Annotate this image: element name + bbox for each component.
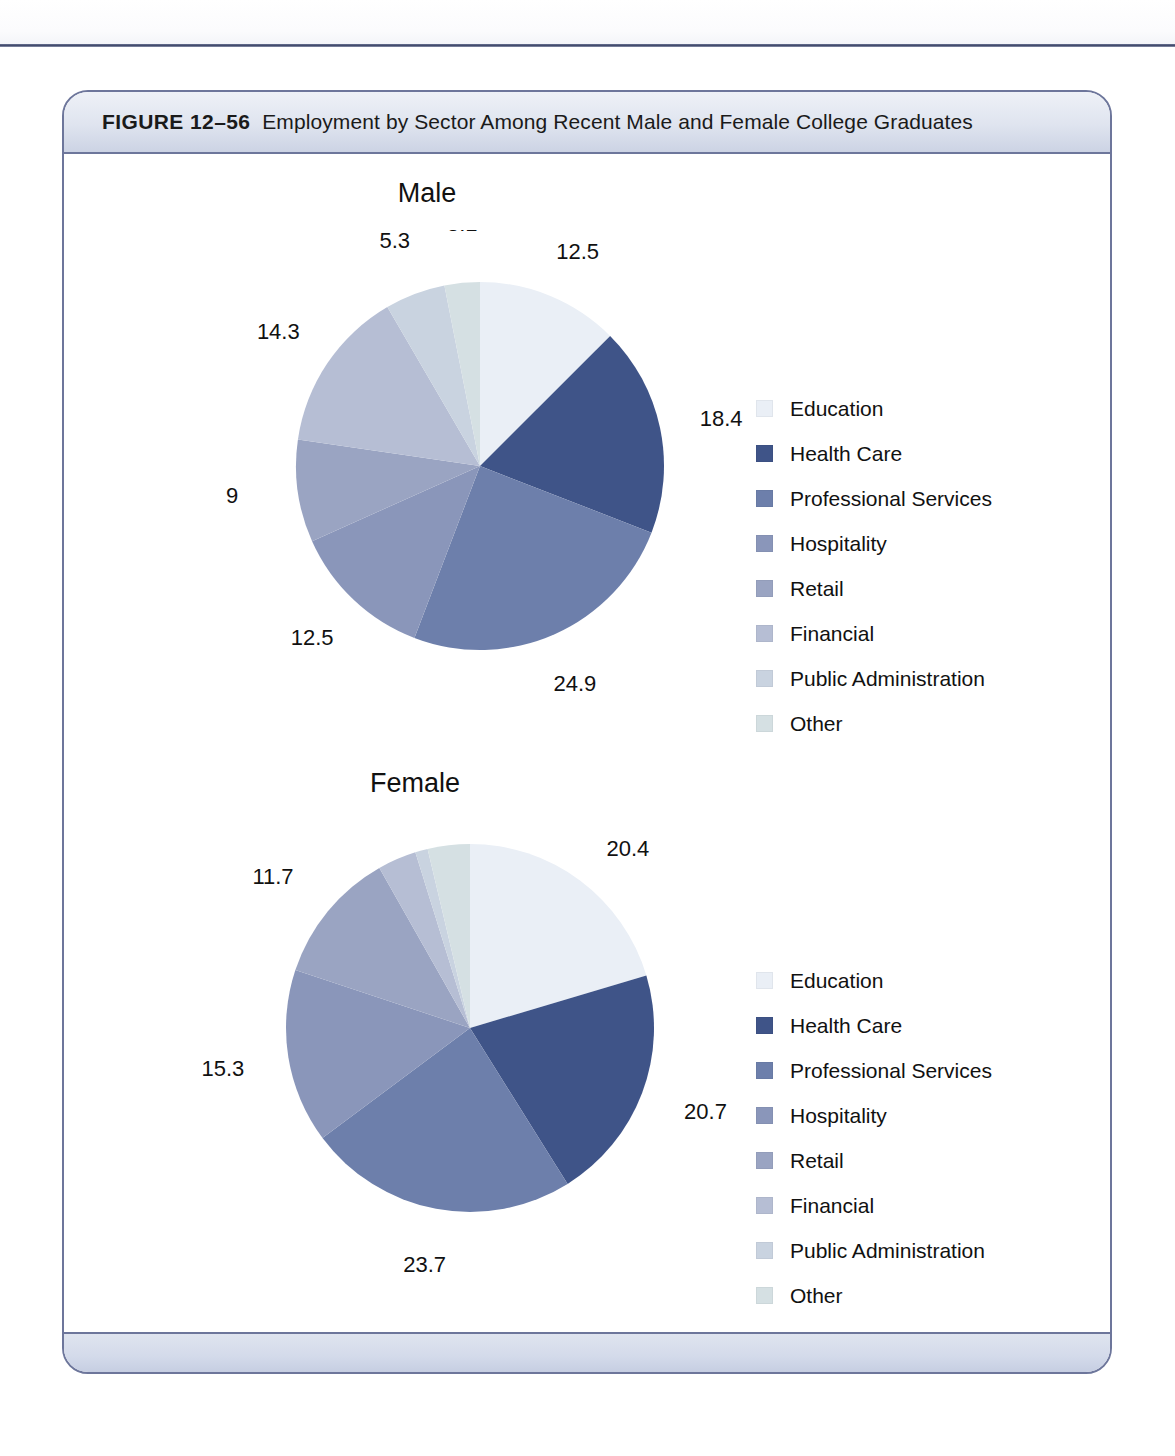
pie-chart-male: 12.518.424.912.5914.35.33.1 [170,230,790,700]
legend-swatch-health-care-icon [756,445,773,462]
legend-swatch-public-administration-icon [756,670,773,687]
legend-swatch-retail-icon [756,580,773,597]
chart-block-male: Male 12.518.424.912.5914.35.33.1 Educati… [64,154,1110,754]
legend-swatch-other-icon [756,1287,773,1304]
pie-value-label: 5.3 [380,230,411,253]
legend-item-other[interactable]: Other [756,1273,992,1318]
legend-item-public-administration[interactable]: Public Administration [756,656,992,701]
figure-title: Employment by Sector Among Recent Male a… [262,110,973,133]
pie-value-label: 11.7 [252,864,293,889]
legend-item-education[interactable]: Education [756,958,992,1003]
page-header-rule [0,44,1175,47]
legend-label-retail: Retail [790,1149,844,1173]
legend-label-professional-services: Professional Services [790,487,992,511]
legend-swatch-professional-services-icon [756,1062,773,1079]
legend-label-public-administration: Public Administration [790,1239,985,1263]
pie-value-label: 18.4 [700,406,743,431]
legend-swatch-professional-services-icon [756,490,773,507]
figure-body: Male 12.518.424.912.5914.35.33.1 Educati… [64,154,1110,1332]
legend-swatch-health-care-icon [756,1017,773,1034]
pie-value-label: 9 [226,483,238,508]
pie-value-label: 20.4 [606,836,649,861]
legend-label-other: Other [790,1284,843,1308]
chart-block-female: Female 20.420.723.715.311.73.41.13.7 Edu… [64,754,1110,1336]
legend-label-retail: Retail [790,577,844,601]
legend-label-education: Education [790,969,883,993]
legend-item-hospitality[interactable]: Hospitality [756,521,992,566]
legend-label-financial: Financial [790,622,874,646]
legend-item-financial[interactable]: Financial [756,1183,992,1228]
pie-wrap-female: 20.420.723.715.311.73.41.13.7 [160,834,780,1304]
legend-male: Education Health Care Professional Servi… [756,386,992,746]
legend-label-health-care: Health Care [790,1014,902,1038]
legend-label-health-care: Health Care [790,442,902,466]
legend-item-public-administration[interactable]: Public Administration [756,1228,992,1273]
pie-wrap-male: 12.518.424.912.5914.35.33.1 [170,230,790,700]
legend-label-other: Other [790,712,843,736]
legend-female: Education Health Care Professional Servi… [756,958,992,1318]
pie-value-label: 3.1 [447,230,478,236]
chart-title-male: Male [62,178,950,209]
pie-value-label: 14.3 [257,319,300,344]
legend-item-retail[interactable]: Retail [756,566,992,611]
legend-item-professional-services[interactable]: Professional Services [756,476,992,521]
legend-item-hospitality[interactable]: Hospitality [756,1093,992,1138]
figure-number: FIGURE 12–56 [102,110,250,133]
legend-item-other[interactable]: Other [756,701,992,746]
legend-label-hospitality: Hospitality [790,532,887,556]
legend-swatch-hospitality-icon [756,1107,773,1124]
pie-value-label: 12.5 [556,239,599,264]
legend-label-professional-services: Professional Services [790,1059,992,1083]
legend-label-education: Education [790,397,883,421]
legend-item-financial[interactable]: Financial [756,611,992,656]
legend-swatch-public-administration-icon [756,1242,773,1259]
pie-value-label: 20.7 [684,1099,727,1124]
legend-swatch-hospitality-icon [756,535,773,552]
legend-item-education[interactable]: Education [756,386,992,431]
legend-item-health-care[interactable]: Health Care [756,1003,992,1048]
chart-title-female: Female [62,768,938,799]
legend-swatch-education-icon [756,972,773,989]
pie-value-label: 23.7 [403,1252,446,1277]
legend-swatch-financial-icon [756,1197,773,1214]
legend-item-professional-services[interactable]: Professional Services [756,1048,992,1093]
figure-caption: FIGURE 12–56 Employment by Sector Among … [64,110,973,134]
figure-card: FIGURE 12–56 Employment by Sector Among … [62,90,1112,1374]
legend-swatch-financial-icon [756,625,773,642]
pie-chart-female: 20.420.723.715.311.73.41.13.7 [160,834,780,1304]
figure-header: FIGURE 12–56 Employment by Sector Among … [64,92,1110,154]
legend-label-hospitality: Hospitality [790,1104,887,1128]
legend-label-public-administration: Public Administration [790,667,985,691]
figure-footer [64,1332,1110,1372]
legend-item-retail[interactable]: Retail [756,1138,992,1183]
page-top-whitespace [0,0,1175,44]
legend-item-health-care[interactable]: Health Care [756,431,992,476]
pie-value-label: 15.3 [201,1056,244,1081]
legend-label-financial: Financial [790,1194,874,1218]
legend-swatch-education-icon [756,400,773,417]
legend-swatch-other-icon [756,715,773,732]
legend-swatch-retail-icon [756,1152,773,1169]
pie-value-label: 24.9 [553,671,596,696]
pie-value-label: 12.5 [291,625,334,650]
